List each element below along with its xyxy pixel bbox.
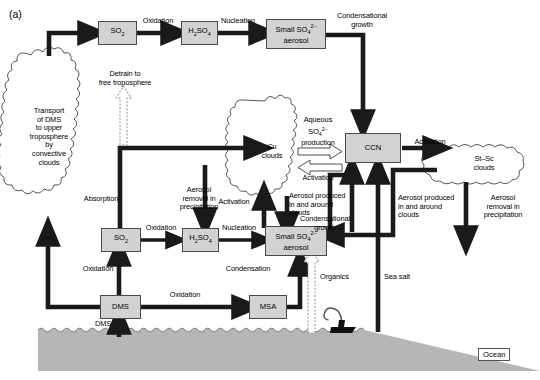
label-nucleation-upper: Nucleation [211, 17, 265, 26]
label-activation-lower: Activation [207, 198, 261, 207]
label-nucleation-lower: Nucleation [212, 224, 266, 233]
arrow-organics [304, 250, 319, 333]
arrow-detrain [116, 86, 131, 145]
label-oxidation-upper: Oxidation [134, 17, 182, 26]
label-absorption: Absorption [72, 195, 130, 204]
label-detrain: Detrain to free troposphere [85, 70, 165, 87]
figure-canvas: (a) SO2 H2SO4 Small SO42−aerosol CCN SO2… [0, 0, 540, 380]
label-activation-ccn: Activation [404, 138, 456, 147]
stsc-cloud-label: St–Sc clouds [456, 155, 512, 172]
label-dms-flux: DMS [95, 320, 123, 329]
label-oxidation-dms-so2: Oxidation [70, 265, 126, 274]
box-so2-upper[interactable]: SO2 [98, 21, 137, 45]
ocean-layer [38, 328, 540, 371]
flow-diagram-svg [0, 0, 540, 380]
arrow-condensation-msa-to-aerosol [286, 262, 300, 307]
aqueous-production-text: AqueousSO42−production [301, 115, 335, 147]
label-organics: Organics [320, 273, 372, 282]
label-condensational-growth-lower: Condensational growth [286, 215, 364, 232]
panel-label: (a) [9, 8, 22, 20]
box-dms[interactable]: DMS [100, 295, 141, 319]
label-condensation: Condensation [213, 265, 283, 274]
ocean-label: Ocean [478, 348, 510, 361]
box-aerosol-upper[interactable]: Small SO42−aerosol [266, 19, 326, 49]
label-aerosol-produced-stsc: Aerosol produced in and around clouds [398, 194, 474, 220]
label-aerosol-removal-right: Aerosol removal in precipitation [472, 194, 534, 220]
label-oxidation-lower: Oxidation [137, 224, 185, 233]
label-sea-salt: Sea salt [384, 273, 430, 282]
box-msa[interactable]: MSA [249, 295, 287, 319]
label-condensational-growth-upper: Condensational growth [322, 12, 402, 29]
label-oxidation-dms-msa: Oxidation [157, 291, 213, 300]
box-so2-lower[interactable]: SO2 [101, 228, 141, 252]
label-aqueous-production: AqueousSO42−production [294, 107, 342, 147]
cu-cloud-label: Cu clouds [250, 143, 294, 160]
box-ccn[interactable]: CCN [345, 133, 401, 163]
ship-icon [324, 308, 356, 333]
hollow-exchange-arrows [298, 144, 342, 175]
label-activation-cu: Activation [294, 174, 342, 183]
transport-cloud-label: Transport of DMS to upper troposphere by… [13, 107, 85, 167]
